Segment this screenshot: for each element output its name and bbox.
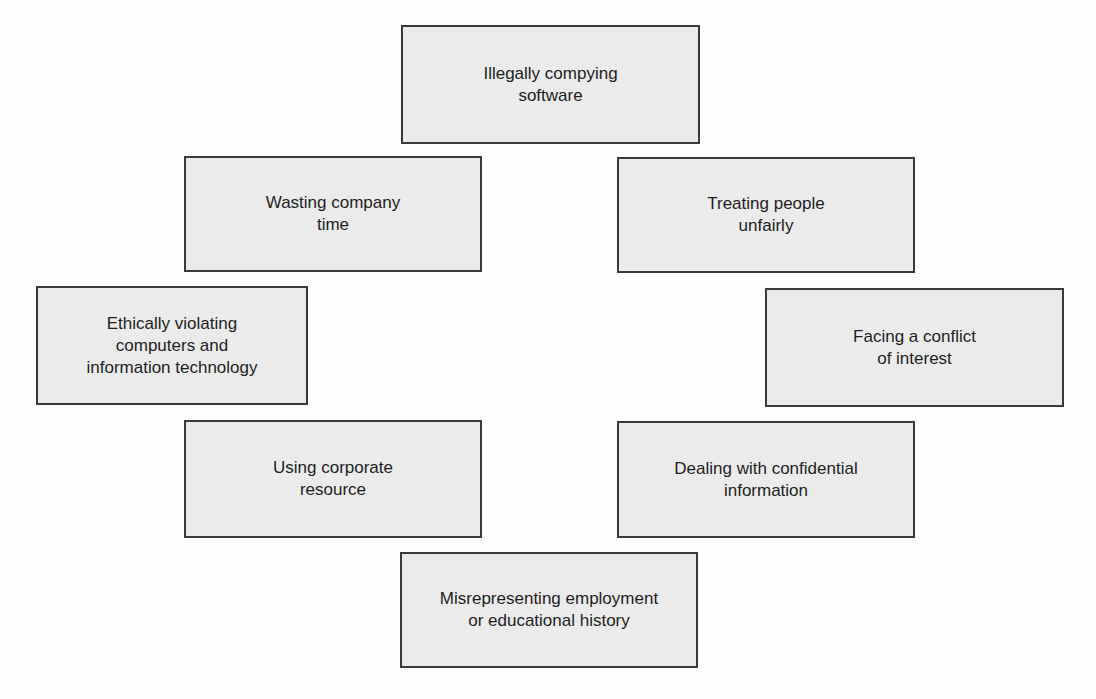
box-label: Misrepresenting employment or educationa…: [440, 588, 658, 632]
box-label: Ethically violating computers and inform…: [86, 313, 257, 379]
box-label: Using corporate resource: [273, 457, 393, 501]
box-label: Treating people unfairly: [707, 193, 825, 237]
box-wasting-company-time: Wasting company time: [184, 156, 482, 272]
box-label: Wasting company time: [266, 192, 400, 236]
box-using-corporate-resource: Using corporate resource: [184, 420, 482, 538]
box-dealing-with-confidential-information: Dealing with confidential information: [617, 421, 915, 538]
box-misrepresenting-history: Misrepresenting employment or educationa…: [400, 552, 698, 668]
box-label: Facing a conflict of interest: [853, 326, 976, 370]
box-ethically-violating-computers: Ethically violating computers and inform…: [36, 286, 308, 405]
box-treating-people-unfairly: Treating people unfairly: [617, 157, 915, 273]
box-label: Dealing with confidential information: [674, 458, 857, 502]
box-illegally-copying-software: Illegally compying software: [401, 25, 700, 144]
box-facing-conflict-of-interest: Facing a conflict of interest: [765, 288, 1064, 407]
box-label: Illegally compying software: [483, 63, 617, 107]
diagram-canvas: Illegally compying software Wasting comp…: [0, 0, 1096, 699]
